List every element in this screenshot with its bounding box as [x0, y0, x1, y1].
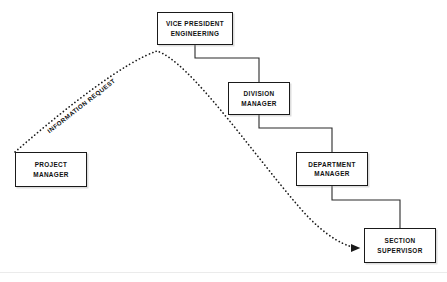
- scan-artifact-strip: [0, 272, 447, 273]
- box-label-line1: DEPARTMENT: [308, 160, 355, 169]
- information-request-dotted-path: [15, 51, 360, 248]
- box-project-manager[interactable]: PROJECT MANAGER: [15, 152, 87, 187]
- box-label-line1: DIVISION: [244, 89, 275, 98]
- box-label-line1: SECTION: [385, 236, 416, 245]
- connector-division-to-department: [259, 115, 332, 152]
- connector-vp-to-division: [195, 45, 259, 82]
- box-label-line2: SUPERVISOR: [377, 246, 422, 255]
- org-chart-diagram: VICE PRESIDENT ENGINEERING DIVISION MANA…: [0, 0, 447, 282]
- box-label-line2: MANAGER: [314, 169, 349, 178]
- connector-department-to-section: [332, 186, 400, 228]
- box-label-line2: MANAGER: [33, 170, 68, 179]
- box-section-supervisor[interactable]: SECTION SUPERVISOR: [364, 228, 436, 263]
- box-division-manager[interactable]: DIVISION MANAGER: [228, 82, 290, 115]
- box-label-line2: ENGINEERING: [171, 29, 220, 38]
- box-label-line2: MANAGER: [241, 99, 276, 108]
- box-vice-president-engineering[interactable]: VICE PRESIDENT ENGINEERING: [157, 12, 233, 45]
- box-label-line1: PROJECT: [35, 160, 68, 169]
- box-department-manager[interactable]: DEPARTMENT MANAGER: [296, 152, 368, 186]
- box-label-line1: VICE PRESIDENT: [166, 19, 224, 28]
